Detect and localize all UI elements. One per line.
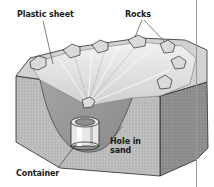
container-opening bbox=[75, 119, 95, 126]
label-rocks: Rocks bbox=[125, 10, 151, 19]
label-hole-line2: sand bbox=[110, 146, 141, 155]
label-container: Container bbox=[16, 169, 59, 178]
page-border-line bbox=[196, 0, 197, 187]
label-hole-in-sand: Hole in sand bbox=[110, 137, 141, 155]
sand-block-side bbox=[160, 82, 208, 176]
label-hole-line1: Hole in bbox=[110, 137, 141, 146]
diagram: Plastic sheet Rocks Hole in sand Contain… bbox=[0, 0, 214, 187]
leader-rocks-a bbox=[135, 20, 142, 37]
label-plastic-sheet: Plastic sheet bbox=[17, 10, 74, 19]
solar-still-illustration bbox=[0, 0, 214, 187]
